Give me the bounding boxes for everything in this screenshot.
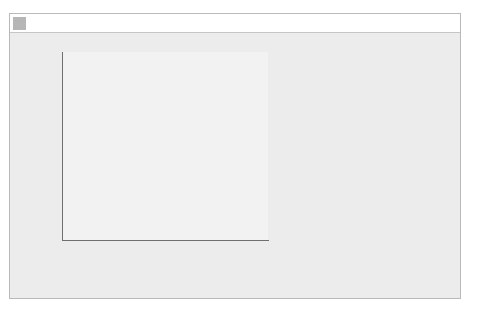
figure-panel bbox=[9, 13, 461, 299]
area-chart-svg bbox=[62, 52, 268, 240]
chart-area bbox=[10, 33, 291, 300]
legend-panel bbox=[291, 33, 461, 300]
y-axis-line bbox=[62, 52, 63, 241]
figure-number-badge bbox=[13, 17, 26, 30]
plot-canvas bbox=[62, 52, 268, 240]
figure-title-bar bbox=[10, 14, 460, 33]
x-axis-line bbox=[62, 240, 269, 241]
